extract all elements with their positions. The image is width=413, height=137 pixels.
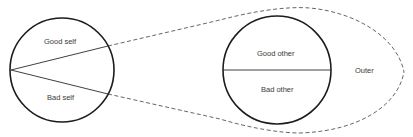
bad-other-label: Bad other — [261, 85, 294, 94]
self-upper-divider — [11, 46, 108, 70]
outer-boundary-upper — [108, 8, 404, 72]
self-circle — [10, 18, 114, 122]
self-lower-divider — [11, 70, 108, 94]
bad-self-label: Bad self — [47, 93, 75, 102]
diagram-canvas: Good self Bad self Good other Bad other … — [0, 0, 413, 137]
outer-boundary-lower — [108, 72, 404, 133]
good-other-label: Good other — [257, 49, 295, 58]
good-self-label: Good self — [44, 37, 77, 46]
outer-label: Outer — [355, 66, 374, 75]
